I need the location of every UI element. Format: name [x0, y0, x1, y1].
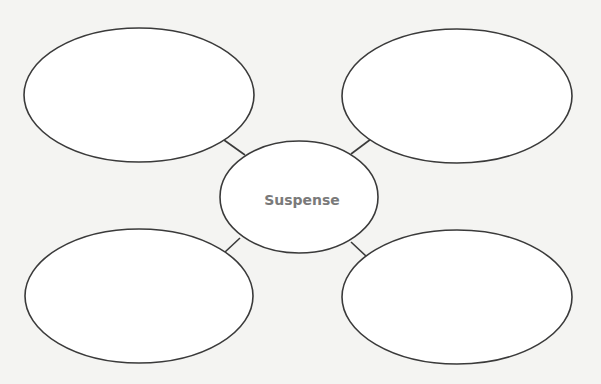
bubble-top-right	[342, 29, 572, 163]
center-label: Suspense	[264, 192, 340, 208]
connector-top-left	[224, 140, 245, 155]
bubble-bottom-right	[342, 230, 572, 364]
connector-top-right	[351, 139, 371, 154]
connector-bottom-right	[351, 242, 366, 256]
bubble-bottom-left	[25, 229, 253, 363]
connector-bottom-left	[225, 238, 240, 252]
bubble-top-left	[24, 28, 254, 162]
web-diagram: Suspense	[0, 0, 601, 384]
